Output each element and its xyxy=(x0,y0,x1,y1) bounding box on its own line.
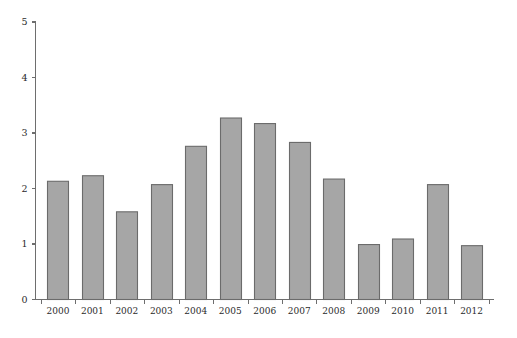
x-tick-label: 2012 xyxy=(460,306,483,316)
y-tick-label: 3 xyxy=(21,127,27,138)
x-tick-label: 2001 xyxy=(81,306,104,316)
x-tick-label: 2003 xyxy=(150,306,173,316)
x-tick-label: 2005 xyxy=(219,306,242,316)
x-tick-label: 2007 xyxy=(288,306,311,316)
bar xyxy=(255,124,276,300)
x-tick-group xyxy=(42,300,490,304)
x-tick-label: 2004 xyxy=(184,306,207,316)
bar xyxy=(428,185,449,300)
bar xyxy=(152,185,173,300)
x-tick-label: 2009 xyxy=(357,306,380,316)
x-tick-label: 2000 xyxy=(46,306,69,316)
y-tick-label: 5 xyxy=(21,16,27,27)
bar xyxy=(324,179,345,299)
bar xyxy=(393,239,414,299)
bar-chart-figure: 012345 200020012002200320042005200620072… xyxy=(0,0,517,338)
y-tick-group: 012345 xyxy=(21,16,35,305)
x-tick-label: 2006 xyxy=(253,306,276,316)
bar xyxy=(117,212,138,300)
y-tick-label: 0 xyxy=(21,294,27,305)
bar-group xyxy=(48,118,483,299)
y-tick-label: 4 xyxy=(21,72,27,83)
bar xyxy=(221,118,242,299)
bar xyxy=(48,181,69,299)
x-tick-label-group: 2000200120022003200420052006200720082009… xyxy=(46,306,483,316)
y-tick-label: 1 xyxy=(21,238,27,249)
bar xyxy=(186,146,207,299)
bar xyxy=(359,245,380,300)
x-tick-label: 2008 xyxy=(322,306,345,316)
bar xyxy=(290,142,311,299)
bar xyxy=(83,176,104,300)
chart-canvas: 012345 200020012002200320042005200620072… xyxy=(0,0,517,338)
x-tick-label: 2010 xyxy=(391,306,414,316)
x-tick-label: 2011 xyxy=(426,306,449,316)
x-tick-label: 2002 xyxy=(115,306,138,316)
y-tick-label: 2 xyxy=(21,183,27,194)
bar xyxy=(462,246,483,300)
